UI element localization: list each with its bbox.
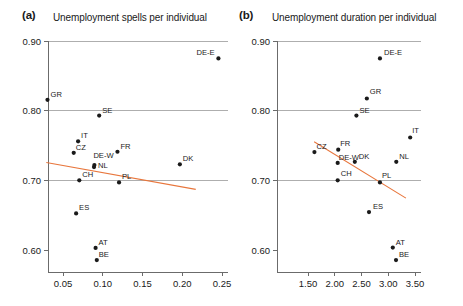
data-point-label: NL — [98, 161, 108, 170]
y-tick-label: 0.60 — [23, 245, 42, 256]
data-point-label: CZ — [76, 143, 86, 152]
data-point-label: DE-E — [384, 48, 402, 57]
y-tick-label: 0.70 — [23, 175, 42, 186]
data-point-label: BE — [399, 250, 409, 259]
x-tick-label: 3.00 — [379, 278, 398, 289]
panel-a: (a) Unemployment spells per individual 0… — [0, 0, 232, 306]
x-tick-label: 2.50 — [352, 278, 371, 289]
panel-a-svg: 0.600.700.800.900.050.100.150.200.25DE-E… — [0, 0, 232, 306]
data-point — [378, 56, 382, 60]
data-point-label: IT — [412, 126, 419, 135]
data-point — [77, 178, 81, 182]
x-tick-label: 3.50 — [406, 278, 425, 289]
data-point-label: CZ — [316, 142, 326, 151]
data-point — [115, 150, 119, 154]
y-tick-label: 0.80 — [23, 105, 42, 116]
data-point-label: CH — [341, 169, 352, 178]
x-tick-label: 0.05 — [54, 278, 73, 289]
data-point — [394, 258, 398, 262]
y-tick-label: 0.60 — [252, 245, 271, 256]
data-point-label: DE-E — [196, 48, 214, 57]
y-tick-label: 0.90 — [252, 36, 271, 47]
data-point — [394, 160, 398, 164]
data-point — [216, 56, 220, 60]
data-point — [367, 210, 371, 214]
panel-a-plot: 0.600.700.800.900.050.100.150.200.25DE-E… — [0, 0, 232, 306]
data-point-label: IT — [81, 131, 88, 140]
data-point-label: GR — [50, 90, 62, 99]
x-tick-label: 2.00 — [326, 278, 345, 289]
data-point — [178, 162, 182, 166]
data-point-label: ES — [79, 203, 89, 212]
x-tick-label: 0.15 — [133, 278, 152, 289]
data-point-label: DE-W — [93, 151, 114, 160]
y-tick-label: 0.80 — [252, 105, 271, 116]
panel-b-svg: 0.600.700.800.901.502.002.503.003.50DE-E… — [231, 0, 463, 306]
data-point — [93, 246, 97, 250]
panel-b: (b) Unemployment duration per individual… — [231, 0, 463, 306]
figure-container: (a) Unemployment spells per individual 0… — [0, 0, 463, 306]
data-point — [92, 165, 96, 169]
data-point-label: BE — [99, 250, 109, 259]
x-tick-label: 0.10 — [94, 278, 113, 289]
data-point-label: AT — [396, 238, 406, 247]
fit-line — [46, 163, 195, 190]
data-point — [336, 178, 340, 182]
data-point-label: CH — [82, 170, 93, 179]
data-point — [365, 96, 369, 100]
data-point-label: FR — [120, 142, 131, 151]
data-point-label: DK — [359, 152, 370, 161]
y-tick-label: 0.70 — [252, 175, 271, 186]
data-point-label: AT — [99, 238, 109, 247]
data-point — [391, 245, 395, 249]
x-tick-label: 0.20 — [173, 278, 192, 289]
data-point — [117, 180, 121, 184]
data-point-label: PL — [382, 171, 391, 180]
data-point-label: DK — [183, 154, 194, 163]
data-point-label: NL — [399, 152, 409, 161]
data-point — [336, 148, 340, 152]
x-tick-label: 0.25 — [213, 278, 232, 289]
data-point — [353, 160, 357, 164]
data-point-label: SE — [102, 106, 112, 115]
data-point — [408, 135, 412, 139]
data-point — [74, 211, 78, 215]
data-point-label: GR — [370, 87, 382, 96]
y-tick-label: 0.90 — [23, 36, 42, 47]
data-point — [45, 98, 49, 102]
data-point-label: DE-W — [339, 153, 360, 162]
data-point — [378, 180, 382, 184]
panel-b-plot: 0.600.700.800.901.502.002.503.003.50DE-E… — [231, 0, 463, 306]
data-point-label: ES — [373, 202, 383, 211]
data-point-label: SE — [359, 106, 369, 115]
data-point-label: PL — [122, 172, 131, 181]
data-point — [354, 113, 358, 117]
x-tick-label: 1.50 — [299, 278, 318, 289]
fit-line — [314, 142, 406, 198]
data-point-label: FR — [340, 139, 351, 148]
data-point — [97, 113, 101, 117]
